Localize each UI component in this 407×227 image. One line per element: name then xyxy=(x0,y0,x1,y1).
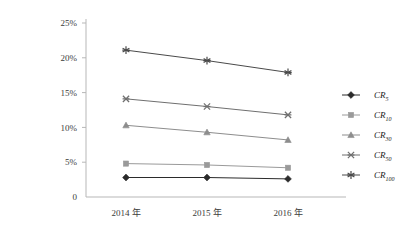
marker-diamond xyxy=(285,176,292,183)
marker-square xyxy=(285,165,290,170)
line-chart: 05%10%15%20%25%2014 年2015 年2016 年CR5CR10… xyxy=(0,0,407,227)
data-point-marker xyxy=(285,112,292,118)
marker-diamond xyxy=(204,174,211,181)
data-point-marker xyxy=(204,174,211,181)
x-category-label: 2014 年 xyxy=(111,207,140,218)
data-point-marker xyxy=(284,69,291,77)
marker-square xyxy=(348,112,353,117)
marker-diamond xyxy=(348,92,355,99)
chart-canvas: 05%10%15%20%25%2014 年2015 年2016 年CR5CR10… xyxy=(0,0,407,227)
marker-diamond xyxy=(123,174,130,181)
legend-label-CR100: CR100 xyxy=(374,170,395,181)
y-tick-label: 5% xyxy=(65,157,78,167)
legend-item-CR5[interactable]: CR5 xyxy=(342,90,389,101)
marker-square xyxy=(204,162,209,167)
x-category-label: 2016 年 xyxy=(273,207,302,218)
data-point-marker xyxy=(123,96,130,102)
data-point-marker xyxy=(348,112,353,117)
data-point-marker xyxy=(285,165,290,170)
y-tick-label: 15% xyxy=(61,88,78,98)
y-tick-label: 0 xyxy=(73,192,78,202)
data-point-marker xyxy=(285,176,292,183)
y-tick-label: 10% xyxy=(61,123,78,133)
marker-triangle xyxy=(123,122,129,128)
legend-label-CR10: CR10 xyxy=(374,110,392,121)
y-tick-label: 25% xyxy=(61,18,78,28)
legend-item-CR50[interactable]: CR50 xyxy=(342,150,392,161)
marker-square xyxy=(123,161,128,166)
data-point-marker xyxy=(204,162,209,167)
legend-item-CR10[interactable]: CR10 xyxy=(342,110,392,121)
series-CR10 xyxy=(123,161,290,170)
data-point-marker xyxy=(123,122,129,128)
data-point-marker xyxy=(203,57,210,65)
x-category-label: 2015 年 xyxy=(192,207,221,218)
legend-label-CR5: CR5 xyxy=(374,90,389,101)
data-point-marker xyxy=(123,174,130,181)
data-point-marker xyxy=(122,46,129,54)
data-point-marker xyxy=(123,161,128,166)
series-CR50 xyxy=(123,96,292,118)
data-point-marker xyxy=(347,171,354,179)
legend-item-CR100[interactable]: CR100 xyxy=(342,170,395,181)
series-CR100 xyxy=(122,46,291,76)
data-point-marker xyxy=(204,103,211,109)
data-point-marker xyxy=(348,152,355,158)
data-point-marker xyxy=(348,92,355,99)
y-tick-label: 20% xyxy=(61,53,78,63)
legend-label-CR50: CR50 xyxy=(374,150,392,161)
series-CR30 xyxy=(123,122,291,142)
legend-label-CR30: CR30 xyxy=(374,130,392,141)
legend-item-CR30[interactable]: CR30 xyxy=(342,130,392,141)
series-CR5 xyxy=(123,174,292,182)
